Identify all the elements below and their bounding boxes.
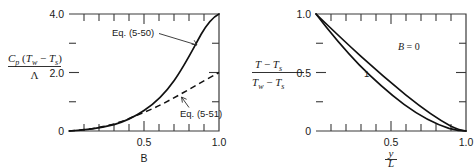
right-panel-curve-b1	[316, 14, 466, 131]
left-panel-ytick-label-0: 0	[58, 125, 64, 137]
right-panel-top-ticks	[331, 14, 451, 24]
left-panel-annotation-eq550-label: Eq. (5-50)	[112, 27, 154, 38]
right-panel-annotation-b0-label: B = 0	[398, 41, 420, 52]
left-panel-ytick-label-2: 2.0	[49, 67, 64, 79]
left-panel-xlabel: B	[140, 152, 147, 164]
right-panel-ytick-label-10: 1.0	[296, 8, 311, 20]
right-panel-ytick-label-0: 0	[305, 125, 311, 137]
left-panel: 4.0 2.0 0 0.5 1.0 B Cp (Tw − Ts) Λ Eq. (…	[8, 8, 226, 164]
right-panel-xlabel-denominator: L	[387, 157, 394, 167]
right-panel: 1.0 0.5 0 0.5 1.0 y L T − Ts Tw − Ts B =…	[252, 8, 473, 167]
left-panel-annotation-eq551-label: Eq. (5-51)	[180, 108, 222, 119]
right-panel-curve-b0	[316, 14, 466, 131]
figure-svg: 4.0 2.0 0 0.5 1.0 B Cp (Tw − Ts) Λ Eq. (…	[0, 0, 475, 167]
right-panel-annotation-b1-label: 1	[364, 68, 369, 79]
right-panel-frame	[316, 14, 466, 131]
left-panel-annotation-eq551-leader	[182, 97, 190, 108]
right-panel-ylabel-denominator: Tw − Ts	[252, 76, 284, 91]
figure-container: 4.0 2.0 0 0.5 1.0 B Cp (Tw − Ts) Λ Eq. (…	[0, 0, 475, 167]
right-panel-xtick-label-10: 1.0	[459, 136, 474, 148]
right-panel-right-ticks	[456, 43, 466, 102]
left-panel-ylabel-numerator: Cp (Tw − Ts)	[8, 52, 62, 67]
right-panel-xlabel: y L	[385, 147, 397, 167]
left-panel-ylabel-denominator: Λ	[31, 69, 39, 81]
left-panel-bottom-ticks	[84, 121, 204, 131]
left-panel-xtick-label-05: 0.5	[137, 136, 152, 148]
left-panel-annotation-eq550-leader	[159, 34, 197, 46]
left-panel-y-ticks	[69, 43, 79, 102]
left-panel-xtick-label-10: 1.0	[212, 136, 227, 148]
right-panel-ylabel-numerator: T − Ts	[255, 58, 282, 73]
right-panel-axes	[316, 14, 466, 131]
left-panel-top-ticks	[84, 14, 204, 24]
right-panel-y-ticks	[316, 43, 326, 102]
left-panel-ytick-label-4: 4.0	[49, 8, 64, 20]
